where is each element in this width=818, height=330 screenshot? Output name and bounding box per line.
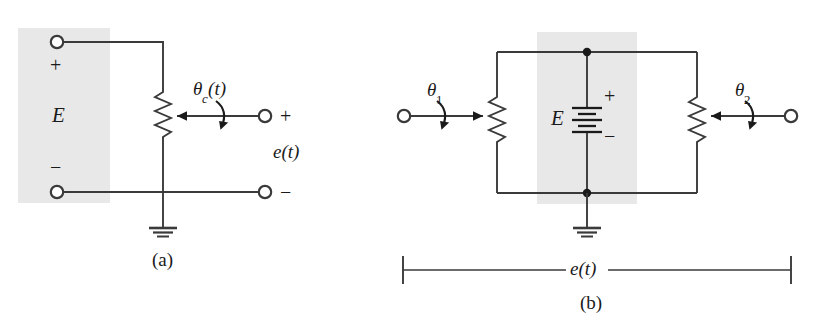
shaft-angle-label-a: θc(t) (193, 79, 226, 103)
shaft-theta-subscript-b-left: 1 (436, 92, 442, 107)
shaft-theta-glyph-a: θ (193, 78, 202, 99)
source-plus-label-b: + (604, 86, 615, 106)
source-label-b: E (551, 108, 564, 129)
rotation-arrow-icon-a (216, 101, 224, 126)
circuit-schematic-svg (0, 0, 818, 330)
shaft-theta-arg-a: (t) (208, 78, 226, 99)
output-voltage-label-b: e(t) (570, 259, 596, 278)
ground-icon-b (573, 228, 601, 237)
resistor-zigzag-icon-b-left (489, 94, 505, 146)
terminal-circle-icon-a-bottom (51, 186, 63, 198)
source-minus-label-b: − (604, 126, 615, 146)
resistor-zigzag-icon-b-right (689, 94, 705, 146)
source-plus-label-a: + (50, 55, 61, 75)
source-minus-label-a: − (50, 157, 61, 177)
ground-icon-a (149, 228, 177, 237)
junction-dot-icon-b-top (583, 48, 591, 56)
output-plus-label-a: + (280, 106, 291, 126)
panel-caption-b: (b) (580, 293, 602, 312)
output-minus-label-a: − (280, 182, 291, 202)
dimension-line-icon-b (403, 256, 791, 284)
output-voltage-label-a: e(t) (273, 142, 299, 161)
terminal-circle-icon-a-out-bottom (259, 186, 271, 198)
terminal-circle-icon-b-right (785, 110, 797, 122)
resistor-zigzag-icon-a (155, 88, 171, 141)
figure-container: + E − θc(t) + e(t) − (a) θ1 + E − θ2 e(t… (0, 0, 818, 330)
shaft-angle-label-b-left: θ1 (427, 80, 443, 104)
terminal-circle-icon-b-left (398, 110, 410, 122)
shaft-theta-subscript-a: c (202, 91, 208, 106)
shaft-angle-label-b-right: θ2 (735, 80, 751, 104)
terminal-circle-icon-a-out-top (259, 110, 271, 122)
shaft-theta-glyph-b-right: θ (735, 79, 744, 100)
shaft-theta-subscript-b-right: 2 (744, 92, 750, 107)
terminal-circle-icon-a-top (51, 36, 63, 48)
panel-caption-a: (a) (152, 250, 173, 269)
shaft-theta-glyph-b-left: θ (427, 79, 436, 100)
source-label-a: E (52, 105, 65, 126)
